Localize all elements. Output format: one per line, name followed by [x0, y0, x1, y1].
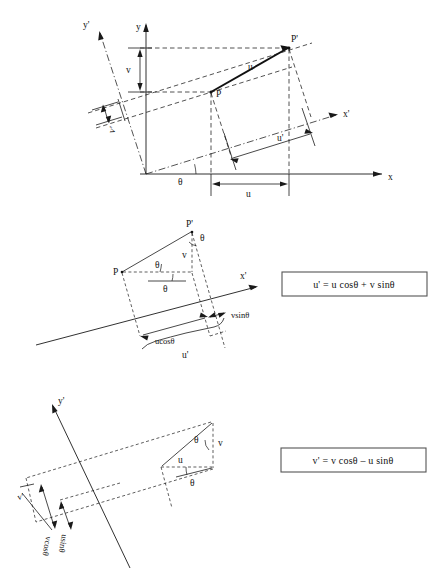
v-dimension-arrow-up: [137, 49, 142, 57]
v-dimension-label: v: [126, 65, 131, 75]
point-p-label: P: [216, 89, 221, 99]
panel-top: x y x' y' u P P': [83, 20, 393, 199]
v-label-mid: v: [182, 250, 187, 260]
u-prime-arrow-left: [230, 158, 239, 163]
point-p-prime-label: P': [291, 34, 298, 44]
usin-theta-label: usinθ: [57, 534, 70, 554]
v-dimension-arrow-down: [137, 83, 142, 91]
vcos-theta-label: vcosθ: [41, 536, 54, 557]
y-axis-arrowhead: [143, 23, 149, 32]
u-dimension-arrow-left: [212, 181, 220, 186]
theta-arc-lower-bot: [186, 467, 187, 475]
usin-upper-cap-bot: [60, 483, 120, 500]
point-p-marker-mid: [121, 271, 124, 274]
foot-perp-projector-mid: [192, 273, 210, 336]
vsin-arrow-left: [208, 312, 216, 317]
v-prime-tick-bot: [20, 484, 34, 487]
v-prime-formula-text: v' = v cosθ – u sinθ: [312, 455, 393, 466]
u-dimension-label: u: [246, 189, 251, 199]
figure-canvas: x y x' y' u P P': [0, 0, 448, 581]
y-prime-axis-arrowhead: [98, 31, 104, 41]
theta-angle-label: θ: [178, 177, 183, 187]
ucos-theta-label: ucosθ: [155, 336, 175, 346]
theta-arc-upper-bot: [205, 440, 209, 450]
v-label-bot: v: [218, 438, 223, 448]
x-axis-arrowhead: [373, 171, 382, 177]
p-parallel-xprime-line: [96, 67, 292, 128]
y-prime-axis-label: y': [83, 20, 90, 30]
left-band-solid-edge-bot: [22, 493, 52, 530]
v-prime-dimension-label: v': [106, 125, 118, 135]
ucos-arrow-right: [199, 313, 208, 318]
x-axis-label: x: [388, 172, 393, 182]
yprime-axis-arrowhead-bot: [52, 404, 58, 414]
p-perp-projector-mid: [122, 273, 140, 336]
upper-dashed-edge-bot: [26, 422, 211, 478]
u-prime-right-tick: [302, 108, 315, 146]
theta-base-line-bot: [176, 468, 212, 477]
panel-bottom: y' u v θ θ v': [17, 396, 426, 568]
panel-middle: x' P P' v θ θ: [36, 219, 427, 360]
x-prime-axis-label: x': [343, 109, 350, 119]
theta-label-upper-bot: θ: [194, 435, 199, 445]
connector-seg-mid: [210, 331, 226, 336]
v-prime-label-bot: v': [17, 491, 25, 502]
x-prime-axis-arrowhead: [328, 113, 338, 119]
p-prime-parallel-xprime-line: [88, 43, 312, 113]
ucos-arrow-left: [140, 336, 149, 341]
point-p-prime-marker-mid: [191, 231, 194, 234]
theta-label-lower-mid: θ: [163, 284, 168, 294]
u-label-bot: u: [178, 455, 183, 465]
theta-label-middle-mid: θ: [155, 260, 160, 270]
ucos-dimension-line: [143, 318, 205, 335]
u-foot-perp-bot: [161, 467, 172, 508]
u-dimension-arrow-right: [280, 181, 288, 186]
theta-arc-middle-mid: [160, 264, 162, 272]
u-prime-formula-text: u' = u cosθ + v sinθ: [313, 279, 395, 290]
u-prime-left-tick: [224, 133, 236, 170]
vector-u-label: u: [248, 62, 253, 72]
xprime-axis-label-mid: x': [240, 271, 247, 281]
theta-label-lower-bot: θ: [190, 478, 195, 488]
p-prime-perp-xprime-projector: [289, 49, 311, 117]
rotation-figure: x y x' y' u P P': [0, 0, 448, 581]
theta-arc-lower-mid: [172, 274, 173, 281]
u-prime-brace-label: u': [182, 350, 189, 360]
theta-angle-arc: [195, 164, 196, 174]
xprime-axis-arrowhead-mid: [248, 285, 258, 290]
apex-slant-line-bot: [162, 423, 212, 466]
y-axis-label: y: [136, 22, 141, 32]
vsin-theta-label: vsinθ: [231, 310, 249, 320]
yprime-axis-label-bot: y': [58, 396, 65, 406]
theta-label-top-mid: θ: [200, 233, 205, 243]
u-prime-dimension-line: [233, 134, 310, 158]
lower-dashed-edge-bot: [36, 469, 213, 522]
u-prime-dimension-label: u': [277, 133, 284, 143]
u-prime-arrow-right: [304, 129, 313, 134]
vsin-arrow-right: [218, 312, 226, 317]
point-p-prime-label-mid: P': [186, 219, 193, 229]
point-p-label-mid: P: [113, 267, 118, 277]
